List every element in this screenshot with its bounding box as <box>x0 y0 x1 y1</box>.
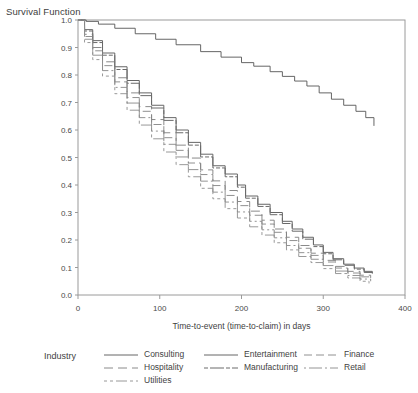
y-tick-label: 1.0 <box>61 16 73 25</box>
x-tick-label: 100 <box>153 304 167 313</box>
x-axis-title: Time-to-event (time-to-claim) in days <box>172 321 310 331</box>
legend-label-manufacturing[interactable]: Manufacturing <box>244 362 298 372</box>
x-tick-label: 200 <box>235 304 249 313</box>
legend-label-finance[interactable]: Finance <box>344 349 374 359</box>
axes-group <box>75 20 405 299</box>
y-tick-label: 0.2 <box>61 236 73 245</box>
curve-manufacturing <box>78 20 372 274</box>
chart-container: Survival Function 0.00.10.20.30.40.50.60… <box>0 0 418 393</box>
legend-label-hospitality[interactable]: Hospitality <box>144 362 183 372</box>
curve-utilities <box>78 20 369 283</box>
y-tick-label: 0.8 <box>61 71 73 80</box>
x-tick-label: 300 <box>317 304 331 313</box>
legend-label-entertainment[interactable]: Entertainment <box>244 349 297 359</box>
x-tick-label: 0 <box>76 304 81 313</box>
legend-label-consulting[interactable]: Consulting <box>144 349 184 359</box>
legend-title: Industry <box>44 351 76 361</box>
legend-label-retail[interactable]: Retail <box>344 362 366 372</box>
x-tick-label: 400 <box>398 304 412 313</box>
curve-retail <box>78 20 371 281</box>
legend-label-utilities[interactable]: Utilities <box>144 375 171 385</box>
curve-entertainment <box>78 20 372 273</box>
curves-group <box>78 20 374 283</box>
legend-swatches-group <box>104 355 338 381</box>
y-tick-label: 0.0 <box>61 291 73 300</box>
y-tick-label: 0.4 <box>61 181 73 190</box>
y-tick-label: 0.6 <box>61 126 73 135</box>
y-tick-label: 0.9 <box>61 44 73 53</box>
curve-finance <box>78 20 371 279</box>
curve-hospitality <box>78 20 371 278</box>
y-tick-label: 0.5 <box>61 154 73 163</box>
survival-plot: 0.00.10.20.30.40.50.60.70.80.91.00100200… <box>0 0 418 393</box>
y-tick-label: 0.7 <box>61 99 73 108</box>
curve-consulting <box>78 20 374 126</box>
y-tick-label: 0.3 <box>61 209 73 218</box>
y-tick-label: 0.1 <box>61 264 73 273</box>
